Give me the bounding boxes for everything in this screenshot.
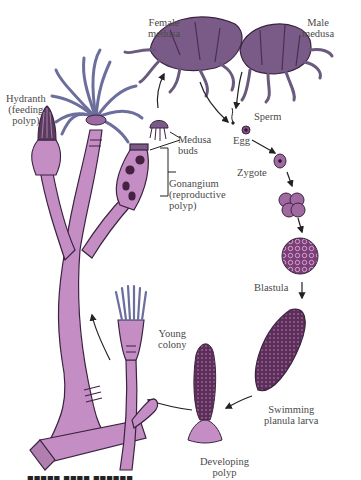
figure-caption-cropped: ■■■■■ ■■■■ ■■■■■■	[27, 474, 167, 480]
label-hydranth: Hydranth (feeding polyp)	[6, 93, 46, 126]
label-medusa-buds: Medusa buds	[178, 134, 211, 156]
hydranth-tentacles	[52, 50, 142, 142]
label-egg: Egg	[233, 135, 250, 146]
zygote	[274, 154, 286, 168]
label-young-colony: Young colony	[158, 328, 187, 350]
sperm	[232, 108, 234, 124]
label-sperm: Sperm	[254, 111, 281, 122]
blastula	[282, 238, 318, 274]
female-medusa	[125, 17, 242, 96]
label-male-medusa: Male medusa	[302, 17, 334, 39]
label-developing-polyp: Developing polyp	[200, 456, 249, 478]
cleavage-stage	[279, 193, 305, 217]
label-gonangium: Gonangium (reproductive polyp)	[169, 178, 226, 211]
medusa-bud	[150, 121, 168, 142]
gonangium	[116, 144, 148, 210]
label-zygote: Zygote	[237, 167, 267, 178]
planula-larva	[256, 309, 306, 391]
developing-polyp	[188, 344, 222, 443]
label-blastula: Blastula	[254, 282, 288, 293]
label-female-medusa: Female medusa	[148, 17, 180, 39]
egg	[242, 126, 250, 134]
label-planula-larva: Swimming planula larva	[264, 404, 319, 426]
